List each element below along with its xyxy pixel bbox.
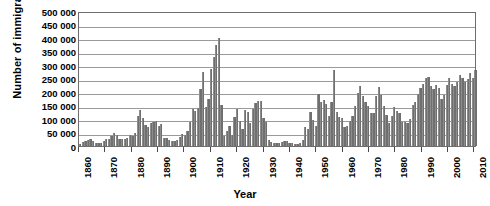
plot-area bbox=[78, 12, 476, 147]
y-axis-tick-labels: 500 000450 000400 000350 000300 000250 0… bbox=[14, 0, 76, 206]
x-tick-label: 1910 bbox=[214, 157, 225, 178]
y-tick-label: 400 000 bbox=[42, 35, 76, 44]
x-tick-label: 1870 bbox=[108, 157, 119, 178]
x-tick-label: 1960 bbox=[346, 157, 357, 178]
x-tick-label: 1970 bbox=[372, 157, 383, 178]
x-tick-label: 1930 bbox=[267, 157, 278, 178]
y-tick-label: 250 000 bbox=[42, 75, 76, 84]
bar-series bbox=[79, 13, 475, 146]
x-tick-label: 1990 bbox=[425, 157, 436, 178]
x-tick-label: 1920 bbox=[240, 157, 251, 178]
x-tick-label: 1950 bbox=[319, 157, 330, 178]
x-tick-label: 1890 bbox=[161, 157, 172, 178]
x-tick-label: 1900 bbox=[187, 157, 198, 178]
x-tick-label: 2000 bbox=[451, 157, 462, 178]
y-tick-label: 0 bbox=[71, 143, 76, 152]
x-tick-label: 1980 bbox=[398, 157, 409, 178]
y-tick-label: 50 000 bbox=[47, 129, 76, 138]
x-tick-label: 1860 bbox=[82, 157, 93, 178]
x-axis-tick-labels: 1860187018801890190019101920193019401950… bbox=[78, 150, 476, 190]
y-tick-label: 200 000 bbox=[42, 89, 76, 98]
x-tick-label: 2010 bbox=[477, 157, 488, 178]
y-tick-label: 100 000 bbox=[42, 116, 76, 125]
bar bbox=[474, 70, 476, 146]
y-tick-label: 150 000 bbox=[42, 102, 76, 111]
y-tick-label: 350 000 bbox=[42, 48, 76, 57]
x-tick-label: 1880 bbox=[135, 157, 146, 178]
x-axis-title: Year bbox=[0, 188, 490, 200]
immigration-histogram-chart: Number of immigrants 500 000450 000400 0… bbox=[0, 0, 490, 206]
x-tick-label: 1940 bbox=[293, 157, 304, 178]
y-tick-label: 500 000 bbox=[42, 8, 76, 17]
y-tick-label: 300 000 bbox=[42, 62, 76, 71]
y-tick-label: 450 000 bbox=[42, 21, 76, 30]
